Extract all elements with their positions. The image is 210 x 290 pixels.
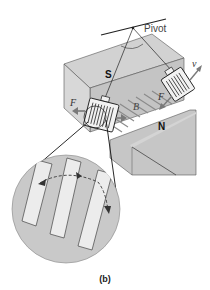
pivot-label: Pivot [144,23,166,34]
velocity-label: v [192,58,197,69]
force-label-right: F [157,91,165,102]
magnified-inset [12,155,120,263]
north-pole-label: N [158,121,165,132]
south-pole-label: S [105,69,112,80]
force-label-left: F [69,97,77,108]
eddy-current-pendulum-diagram: Pivot S N v F B [0,0,210,290]
field-label: B [133,101,139,112]
figure-caption: (b) [99,274,111,284]
